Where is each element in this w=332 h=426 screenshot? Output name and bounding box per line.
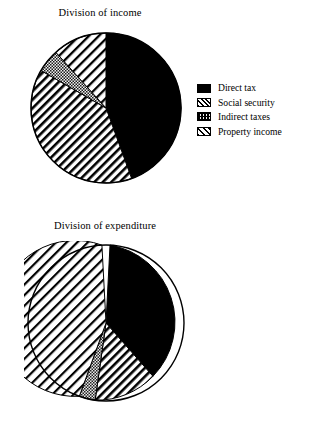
legend-item-indirect-taxes[interactable]: Indirect taxes: [197, 110, 282, 124]
chart-title-expenditure: Division of expenditure: [0, 220, 210, 231]
legend-item-social-security[interactable]: Social security: [197, 95, 282, 109]
legend-swatch-stipple-icon: [197, 112, 211, 121]
pie-svg-income: [26, 28, 186, 188]
legend-item-direct-tax[interactable]: Direct tax: [197, 81, 282, 95]
chart-title-income: Division of income: [0, 7, 200, 18]
pie-chart-figure-page: { "figures": [ { "id": "income", "title"…: [0, 0, 332, 426]
figure-division-of-income: Division of income: [0, 0, 332, 213]
figure-division-of-expenditure: Division of expenditure: [0, 213, 332, 426]
pie-chart-expenditure: [24, 241, 188, 405]
legend-label: Indirect taxes: [218, 112, 270, 122]
legend-swatch-solid-icon: [197, 84, 211, 93]
legend-swatch-hatch-dense-icon: [197, 98, 211, 107]
pie-svg-expenditure: [24, 241, 188, 405]
legend-label: Direct tax: [218, 83, 256, 93]
legend-label: Social security: [218, 98, 275, 108]
legend-item-property-income[interactable]: Property income: [197, 124, 282, 138]
legend-label: Property income: [218, 127, 282, 137]
legend-swatch-hatch-light-icon: [197, 127, 211, 136]
legend-income: Direct tax Social security Indirect taxe…: [197, 81, 282, 139]
pie-chart-income: [26, 28, 186, 188]
